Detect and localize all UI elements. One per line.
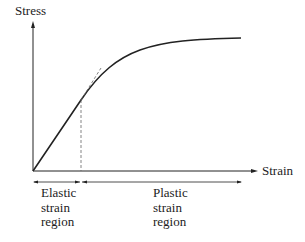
arrow-right-icon — [75, 181, 80, 184]
stress-strain-curve — [33, 38, 241, 171]
y-axis-label: Stress — [15, 4, 46, 18]
elastic-region-label: Elastic strain region — [41, 186, 76, 230]
arrow-right-icon — [237, 181, 242, 184]
plastic-region-label: Plastic strain region — [153, 186, 188, 230]
x-axis-label: Strain — [262, 164, 293, 178]
arrow-left-icon — [82, 181, 87, 184]
tangent-dashed-line — [81, 68, 101, 100]
x-axis-arrow-icon — [251, 169, 258, 173]
y-axis-arrow-icon — [31, 21, 35, 28]
arrow-left-icon — [33, 181, 38, 184]
